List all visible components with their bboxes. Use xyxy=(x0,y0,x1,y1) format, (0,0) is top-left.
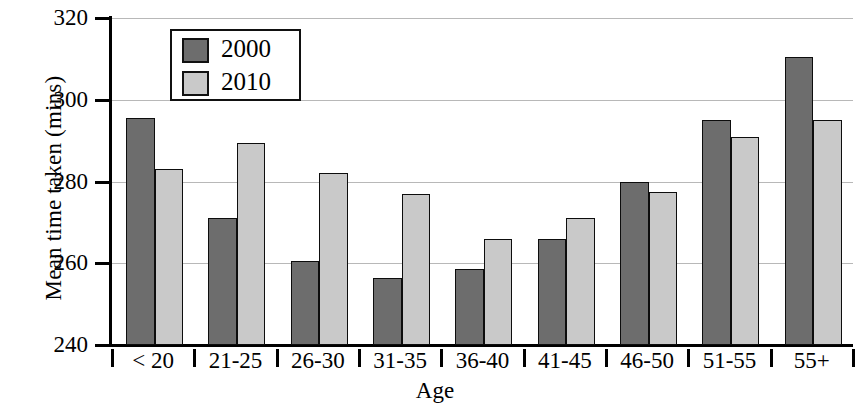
x-tick-label: < 20 xyxy=(112,349,194,373)
bar-2010-31-35 xyxy=(402,194,431,345)
bar-2010-21-25 xyxy=(237,143,266,345)
y-tick-label: 240 xyxy=(8,333,88,356)
bar-2010-51-55 xyxy=(731,137,760,345)
bar-2000-55 xyxy=(785,57,814,345)
bar-2000-26-30 xyxy=(291,261,320,345)
bar-group xyxy=(688,18,770,345)
bar-2010-55 xyxy=(813,120,842,345)
bar-2010-26-30 xyxy=(319,173,348,345)
x-tick-label: 41-45 xyxy=(524,349,606,373)
bar-2000-46-50 xyxy=(620,182,649,346)
bar-2010-36-40 xyxy=(484,239,513,345)
y-tick-label: 300 xyxy=(8,88,88,111)
bar-2010-20 xyxy=(155,169,184,345)
legend: 2000 2010 xyxy=(170,29,301,101)
x-tick-label: 36-40 xyxy=(441,349,523,373)
bar-group xyxy=(441,18,523,345)
x-axis-title: Age xyxy=(112,378,758,404)
bar-2000-51-55 xyxy=(702,120,731,345)
legend-swatch-2010 xyxy=(182,71,209,96)
x-tick-label: 26-30 xyxy=(277,349,359,373)
bar-group xyxy=(771,18,853,345)
y-tick-label: 280 xyxy=(8,170,88,193)
legend-label-2000: 2000 xyxy=(221,34,271,64)
bar-group xyxy=(606,18,688,345)
bar-2000-31-35 xyxy=(373,278,402,345)
bar-2000-41-45 xyxy=(538,239,567,345)
x-tick-label: 46-50 xyxy=(606,349,688,373)
x-tick-label: 55+ xyxy=(771,349,853,373)
bar-group xyxy=(359,18,441,345)
bar-2000-20 xyxy=(126,118,155,345)
x-tick-label: 21-25 xyxy=(194,349,276,373)
bar-group xyxy=(524,18,606,345)
x-tick-label: 51-55 xyxy=(688,349,770,373)
bar-2000-36-40 xyxy=(455,269,484,345)
bar-2000-21-25 xyxy=(208,218,237,345)
bar-2010-41-45 xyxy=(566,218,595,345)
y-tick-label: 320 xyxy=(8,6,88,29)
x-tick-label: 31-35 xyxy=(359,349,441,373)
y-tick-label: 260 xyxy=(8,251,88,274)
bar-2010-46-50 xyxy=(649,192,678,345)
legend-label-2010: 2010 xyxy=(221,67,271,97)
legend-swatch-2000 xyxy=(182,38,209,63)
